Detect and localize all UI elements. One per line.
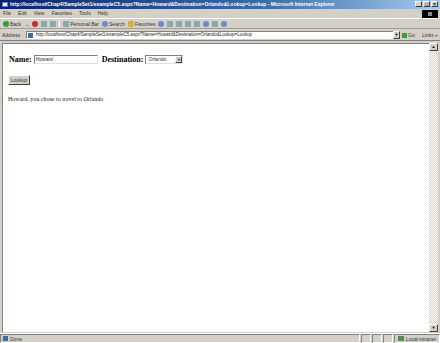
research-button[interactable] [212,21,218,27]
menu-file[interactable]: File [3,9,11,18]
destination-select[interactable]: Orlando ▼ [145,55,183,64]
personal-bar-icon [63,21,69,27]
history-button[interactable] [158,21,164,27]
user-icon [221,21,227,27]
discuss-icon [194,21,200,27]
forward-button[interactable]: → [24,21,29,27]
refresh-icon [41,21,47,27]
messenger-icon [203,21,209,27]
destination-value: Orlando [148,56,166,62]
close-button[interactable]: × [431,1,438,7]
name-input[interactable]: Howard [34,55,98,64]
page-done-icon [3,336,8,341]
lookup-form: Name: Howard Destination: Orlando ▼ [9,55,183,64]
messenger-button[interactable] [203,21,209,27]
menu-edit[interactable]: Edit [18,9,27,18]
scroll-up-button[interactable]: ▲ [429,43,438,51]
menu-view[interactable]: View [34,9,45,18]
menu-tools[interactable]: Tools [79,9,91,18]
status-pane [383,334,393,343]
personal-bar-button[interactable]: Personal Bar [63,21,99,27]
search-icon [102,21,108,27]
page-icon [28,33,33,38]
address-dropdown-button[interactable]: ▼ [393,31,400,39]
discuss-button[interactable] [194,21,200,27]
window-title: http://localhost/Chap4/SampleSet1/exampl… [10,1,335,7]
status-pane [372,334,382,343]
status-pane [361,334,371,343]
edit-icon [185,21,191,27]
minimize-button[interactable]: _ [415,1,422,7]
mail-icon [167,21,173,27]
result-text: Howard, you chose to travel to Orlando [8,96,103,102]
chevron-down-icon[interactable]: ▼ [175,56,182,63]
maximize-button[interactable]: □ [423,1,430,7]
user-button[interactable] [221,21,227,27]
go-button[interactable]: Go [402,31,415,40]
windows-logo-throbber [422,10,438,18]
edit-button[interactable] [185,21,191,27]
window-controls: _ □ × [415,1,438,7]
ie-app-icon [2,2,8,7]
standard-toolbar: Back → Personal Bar Search Favorites [0,18,440,29]
home-icon [50,21,56,27]
research-icon [212,21,218,27]
favorites-button[interactable]: Favorites [128,21,156,27]
favorites-icon [128,21,134,27]
back-button[interactable]: Back [3,21,21,27]
lookup-button[interactable]: Lookup [8,75,30,85]
security-zone: Local intranet [394,334,440,343]
address-url: http://localhost/Chap4/SampleSet1/exampl… [36,32,252,37]
print-button[interactable] [176,21,182,27]
go-arrow-icon [402,33,407,38]
status-text: Done [10,336,22,342]
history-icon [158,21,164,27]
status-bar: Done Local intranet [0,333,440,343]
menu-help[interactable]: Help [98,9,108,18]
mail-button[interactable] [167,21,173,27]
address-label: Address [2,32,26,38]
links-button[interactable]: Links » [422,31,438,40]
status-text-pane: Done [0,334,360,343]
toolbar-separator [59,20,60,28]
name-label: Name: [9,55,32,64]
destination-label: Destination: [102,55,144,64]
zone-text: Local intranet [406,336,436,342]
back-arrow-icon [3,21,9,27]
home-button[interactable] [50,21,56,27]
menu-bar: File Edit View Favorites Tools Help [0,9,440,18]
scroll-down-button[interactable]: ▼ [429,324,438,332]
vertical-scrollbar[interactable]: ▲ ▼ [429,43,438,332]
address-input[interactable]: http://localhost/Chap4/SampleSet1/exampl… [26,31,400,39]
title-bar: http://localhost/Chap4/SampleSet1/exampl… [0,0,440,9]
menu-favorites[interactable]: Favorites [51,9,72,18]
print-icon [176,21,182,27]
refresh-button[interactable] [41,21,47,27]
page-content: Name: Howard Destination: Orlando ▼ Look… [2,43,429,332]
stop-button[interactable] [32,21,38,27]
intranet-zone-icon [398,336,404,341]
search-button[interactable]: Search [102,21,125,27]
stop-icon [32,21,38,27]
address-bar: Address http://localhost/Chap4/SampleSet… [0,30,440,41]
